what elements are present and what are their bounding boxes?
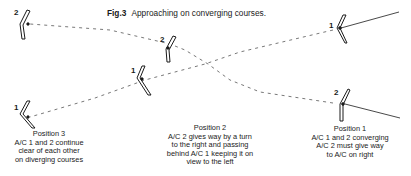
caption-position-2: Position 2 A/C 2 gives way by a turn to … xyxy=(140,124,280,167)
caption-position-1: Position 1 A/C 1 and 2 converging A/C 2 … xyxy=(294,125,406,159)
ac1-flight-path xyxy=(30,30,333,117)
caption-line: view to the left xyxy=(140,158,280,167)
ac2-trail-line xyxy=(345,104,400,118)
caption-line: on diverging courses xyxy=(2,156,96,165)
caption-position-3: Position 3 A/C 1 and 2 continue clear of… xyxy=(2,130,96,164)
label-pos1-ac2: 2 xyxy=(334,88,338,97)
label-pos1-ac1: 1 xyxy=(329,21,333,30)
aircraft-icon-pos2-ac1 xyxy=(137,66,151,95)
caption-line: to A/C on right xyxy=(294,151,406,160)
label-pos3-ac2: 2 xyxy=(14,8,18,17)
figure-label: Fig.3 xyxy=(107,8,126,18)
figure-title: Fig.3Approaching on converging courses. xyxy=(107,8,266,18)
label-pos2-ac1: 1 xyxy=(131,66,135,75)
aircraft-icon-pos1-ac1 xyxy=(337,15,347,43)
label-pos3-ac1: 1 xyxy=(14,103,18,112)
label-pos2-ac2: 2 xyxy=(160,35,164,44)
figure-title-text: Approaching on converging courses. xyxy=(131,8,266,18)
aircraft-icon-pos3-ac1 xyxy=(20,101,35,128)
aircraft-icon-pos2-ac2 xyxy=(166,36,176,62)
ac2-flight-path xyxy=(30,24,333,103)
aircraft-icon-pos3-ac2 xyxy=(20,10,30,39)
ac1-trail-line xyxy=(341,12,399,28)
